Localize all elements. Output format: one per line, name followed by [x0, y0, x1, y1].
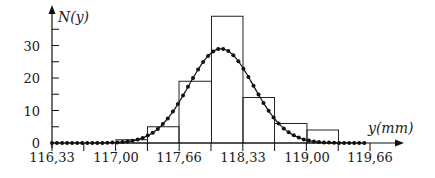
x-axis-label: y(mm): [367, 120, 413, 136]
curve-point: [131, 139, 135, 143]
curve-point: [141, 136, 145, 140]
histogram-chart: 0102030 116,33117,00117,66118,33119,0011…: [0, 0, 435, 178]
curve-point: [252, 84, 256, 88]
curve-point: [216, 47, 220, 51]
curve-point: [181, 94, 185, 98]
curve-point: [136, 138, 140, 142]
curve-point: [226, 49, 230, 53]
curve-point: [241, 67, 245, 71]
curve-point: [186, 85, 190, 89]
axes: [49, 5, 405, 148]
y-axis-arrow-icon: [49, 5, 56, 14]
y-ticks: 0102030: [23, 29, 59, 151]
histogram-bars: [116, 16, 339, 143]
x-tick-label: 119,66: [347, 150, 393, 165]
y-axis-label: N(y): [57, 9, 89, 25]
curve-point: [231, 53, 235, 57]
y-tick-label: 0: [32, 136, 40, 151]
normal-curve-line: [52, 49, 364, 143]
curve-point: [282, 126, 286, 130]
curve-point: [292, 133, 296, 137]
curve-point: [267, 109, 271, 113]
histogram-bar: [147, 127, 179, 143]
histogram-bar: [211, 16, 243, 143]
x-tick-label: 118,33: [220, 150, 266, 165]
curve-point: [156, 127, 160, 131]
curve-point: [146, 134, 150, 138]
curve-point: [272, 116, 276, 120]
x-ticks: 116,33117,00117,66118,33119,00119,66: [29, 143, 393, 165]
curve-point: [166, 116, 170, 120]
y-tick-label: 20: [23, 71, 40, 86]
curve-point: [277, 122, 281, 126]
y-tick-label: 30: [23, 39, 40, 54]
x-tick-label: 119,00: [284, 150, 330, 165]
curve-point: [257, 93, 261, 97]
y-tick-label: 10: [23, 104, 40, 119]
x-tick-label: 117,66: [156, 150, 202, 165]
curve-point: [151, 131, 155, 135]
curve-point: [161, 122, 165, 126]
curve-point: [236, 59, 240, 63]
curve-point: [176, 102, 180, 106]
curve-point: [297, 136, 301, 140]
x-axis-arrow-icon: [395, 140, 404, 147]
curve-point: [201, 60, 205, 64]
histogram-bar: [179, 81, 211, 143]
curve-point: [287, 130, 291, 134]
histogram-bar: [243, 98, 275, 144]
x-tick-label: 116,33: [29, 150, 75, 165]
curve-point: [206, 54, 210, 58]
curve-point: [307, 139, 311, 143]
curve-point: [262, 101, 266, 105]
curve-point: [221, 47, 225, 51]
x-tick-label: 117,00: [93, 150, 139, 165]
curve-point: [246, 75, 250, 79]
curve-point: [191, 76, 195, 80]
curve-point: [196, 68, 200, 72]
curve-point: [302, 137, 306, 141]
curve-point: [211, 50, 215, 54]
curve-point: [171, 110, 175, 114]
